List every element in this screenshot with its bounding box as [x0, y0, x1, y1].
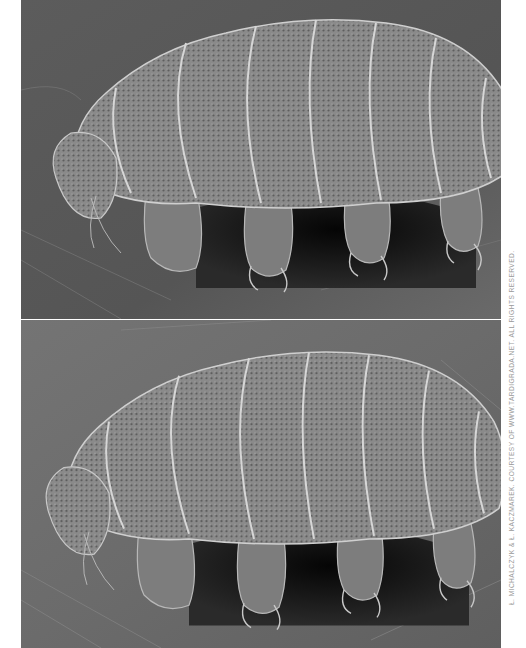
tardigrade-illustration — [21, 320, 501, 648]
tardigrade-illustration — [21, 0, 501, 319]
tardigrade-photo-bottom — [21, 320, 501, 648]
photo-credit: Ł. MICHALCZYK & Ł. KACZMAREK. COURTESY O… — [504, 300, 520, 605]
tardigrade-photo-top — [21, 0, 501, 319]
